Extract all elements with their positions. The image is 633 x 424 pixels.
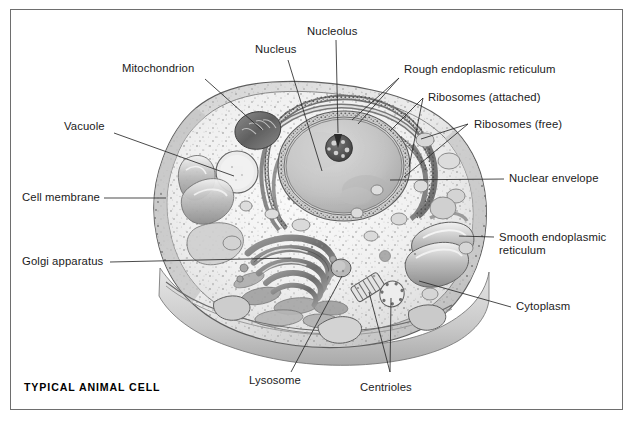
label-cytoplasm: Cytoplasm <box>516 300 570 313</box>
label-mitochondrion: Mitochondrion <box>122 62 194 75</box>
figure-caption: TYPICAL ANIMAL CELL <box>24 381 160 393</box>
cell-body <box>150 75 500 365</box>
lysosome <box>331 259 351 277</box>
label-golgi-apparatus: Golgi apparatus <box>22 255 103 268</box>
figure-canvas: Mitochondrion Nucleus Nucleolus Rough en… <box>0 0 633 424</box>
label-lysosome: Lysosome <box>249 374 301 387</box>
label-cell-membrane: Cell membrane <box>22 191 100 204</box>
label-ribosomes-free: Ribosomes (free) <box>474 118 562 131</box>
label-vacuole: Vacuole <box>64 120 105 133</box>
label-centrioles: Centrioles <box>360 381 412 394</box>
label-rough-endoplasmic-reticulum: Rough endoplasmic reticulum <box>404 63 556 76</box>
label-ribosomes-attached: Ribosomes (attached) <box>428 91 541 104</box>
label-smooth-endoplasmic-reticulum-line2: reticulum <box>499 244 546 257</box>
label-nucleus: Nucleus <box>255 43 297 56</box>
label-smooth-endoplasmic-reticulum-line1: Smooth endoplasmic <box>499 231 606 244</box>
membrane-fold-right <box>409 305 446 330</box>
label-nuclear-envelope: Nuclear envelope <box>509 172 599 185</box>
label-nucleolus: Nucleolus <box>307 25 358 38</box>
